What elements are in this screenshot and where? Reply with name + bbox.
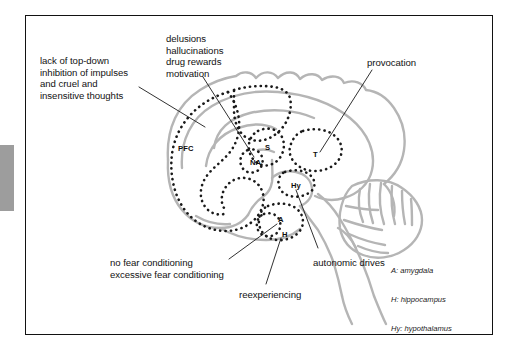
abbreviation-legend: A: amygdala H: hippocampus Hy: hypothala… — [391, 247, 473, 353]
annotation-hippocampus: reexperiencing — [239, 289, 301, 301]
page-edge-artifact — [0, 145, 14, 211]
region-label-amygdala: A — [278, 215, 284, 224]
region-label-hypothalamus: Hy — [291, 181, 301, 190]
region-label-nucleus-accumbens: NA — [250, 158, 261, 167]
annotation-hypothalamus: autonomic drives — [313, 257, 385, 269]
annotation-thalamus: provocation — [367, 57, 416, 69]
legend-entry-hippocampus: H: hippocampus — [391, 295, 473, 305]
annotation-amygdala: no fear conditioning excessive fear cond… — [110, 257, 224, 280]
figure-root: lack of top-down inhibition of impulses … — [0, 0, 514, 353]
region-label-thalamus: T — [313, 150, 318, 159]
annotation-pfc: lack of top-down inhibition of impulses … — [40, 55, 128, 101]
region-label-pfc: PFC — [178, 144, 194, 153]
region-label-hippocampus: H — [282, 230, 288, 239]
legend-entry-amygdala: A: amygdala — [391, 266, 473, 276]
region-label-striatum: S — [265, 143, 270, 152]
legend-entry-hypothalamus: Hy: hypothalamus — [391, 324, 473, 334]
annotation-nucleus-accumbens: delusions hallucinations drug rewards mo… — [166, 33, 223, 79]
